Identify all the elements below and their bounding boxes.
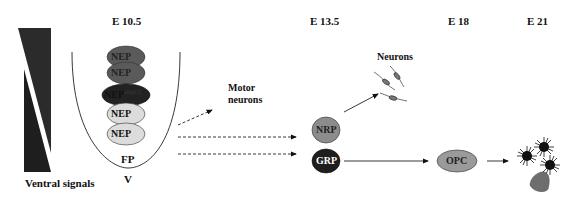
stage-label-e21: E 21: [527, 15, 548, 27]
stage-label-e10-5: E 10.5: [112, 15, 141, 27]
stage-label-e13-5: E 13.5: [310, 15, 339, 27]
astrocyte-blob-icon: [530, 172, 549, 192]
arrow-nrp-to-neurons: [344, 94, 378, 112]
nep-label-olig-main: NEP: [104, 89, 124, 100]
motor-neurons-label-line2: neurons: [228, 94, 262, 105]
nep-label-olig: NEPolig1/2: [104, 89, 141, 100]
opc-label: OPC: [446, 155, 467, 166]
grp-label: GRP: [316, 155, 337, 166]
stage-label-e18: E 18: [448, 15, 469, 27]
oligodendrocytes-icon: [517, 137, 560, 175]
floor-plate-label: FP: [121, 153, 134, 165]
nep-label-1: NEP: [111, 51, 131, 62]
neurons-icon: [374, 66, 407, 101]
nep-label-5: NEP: [111, 128, 131, 139]
ventral-signals-label: Ventral signals: [25, 177, 95, 189]
lineage-diagram: E 10.5 E 13.5 E 18 E 21 Ventral signals …: [0, 0, 577, 201]
arrow-to-motor-neurons: [178, 110, 212, 125]
neurons-label: Neurons: [377, 51, 413, 62]
motor-neurons-label-line1: Motor: [228, 82, 255, 93]
ventral-signals-gradient-icon: [18, 28, 51, 172]
nrp-label: NRP: [316, 124, 337, 135]
nep-label-2: NEP: [111, 67, 131, 78]
nep-label-4: NEP: [111, 108, 131, 119]
ventral-label: V: [124, 173, 132, 185]
diagram-graphics: [0, 0, 577, 201]
nep-label-olig-sup: olig1/2: [124, 89, 141, 95]
